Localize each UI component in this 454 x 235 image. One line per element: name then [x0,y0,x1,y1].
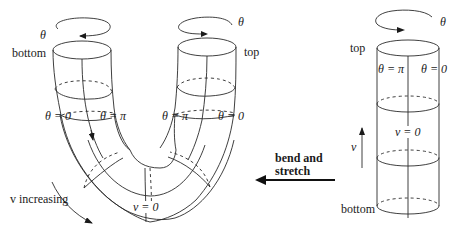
bottom-label-left: bottom [12,47,46,59]
v-zero-label-straight: v = 0 [395,126,420,138]
top-label-right-arm: top [244,46,259,58]
left-arm-thetapi-label: θ = π [100,110,126,122]
right-arm-thetapi-label: θ = π [162,110,188,122]
bend-label-line2: stretch [275,165,345,178]
theta-label-right-arm: θ [238,16,244,28]
left-arm-theta0-label: θ = 0 [45,110,71,122]
v-increasing-label: v increasing [10,193,68,205]
theta-pi-label-straight: θ = π [378,63,404,75]
bent-cylinder [52,17,236,223]
top-label-straight: top [350,42,365,54]
rotation-arrow-left-icon [56,18,110,36]
straight-cylinder [362,10,439,218]
v-zero-label-left: v = 0 [133,201,158,213]
bottom-label-straight: bottom [341,203,375,215]
bend-and-stretch-label: bend and stretch [275,152,345,178]
theta-0-label-straight: θ = 0 [421,63,447,75]
theta-label-straight: θ [440,16,446,28]
rotation-arrow-icon [376,10,432,30]
right-arm-theta0-label: θ = 0 [218,110,244,122]
rotation-arrow-right-icon [179,17,232,34]
v-axis-label: v [351,141,356,153]
theta-label-left: θ [40,29,46,41]
